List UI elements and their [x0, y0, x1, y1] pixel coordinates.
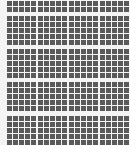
tile[interactable] — [75, 94, 80, 99]
tile[interactable] — [19, 28, 24, 33]
tile[interactable] — [7, 40, 12, 45]
tile[interactable] — [81, 134, 86, 139]
tile[interactable] — [87, 116, 92, 121]
tile[interactable] — [62, 122, 67, 127]
tile[interactable] — [75, 128, 80, 133]
tile[interactable] — [31, 7, 36, 12]
tile[interactable] — [62, 88, 67, 93]
tile[interactable] — [50, 106, 55, 111]
tile[interactable] — [124, 67, 129, 72]
tile[interactable] — [124, 34, 129, 39]
tile[interactable] — [100, 100, 105, 105]
tile[interactable] — [118, 55, 123, 60]
tile[interactable] — [118, 106, 123, 111]
tile[interactable] — [50, 94, 55, 99]
tile[interactable] — [81, 16, 86, 21]
tile[interactable] — [81, 88, 86, 93]
tile[interactable] — [75, 7, 80, 12]
tile[interactable] — [112, 106, 117, 111]
tile[interactable] — [106, 34, 111, 39]
tile[interactable] — [13, 128, 18, 133]
tile[interactable] — [87, 100, 92, 105]
tile[interactable] — [81, 73, 86, 78]
tile[interactable] — [25, 1, 30, 6]
tile[interactable] — [7, 94, 12, 99]
tile[interactable] — [13, 82, 18, 87]
tile[interactable] — [106, 28, 111, 33]
tile[interactable] — [81, 106, 86, 111]
tile[interactable] — [31, 61, 36, 66]
tile[interactable] — [93, 49, 98, 54]
tile[interactable] — [44, 40, 49, 45]
tile[interactable] — [124, 100, 129, 105]
tile[interactable] — [81, 94, 86, 99]
tile[interactable] — [7, 82, 12, 87]
tile[interactable] — [56, 140, 61, 145]
tile[interactable] — [25, 40, 30, 45]
tile[interactable] — [25, 55, 30, 60]
tile[interactable] — [100, 88, 105, 93]
tile[interactable] — [56, 22, 61, 27]
tile[interactable] — [100, 82, 105, 87]
tile[interactable] — [100, 49, 105, 54]
tile[interactable] — [106, 106, 111, 111]
tile[interactable] — [56, 34, 61, 39]
tile[interactable] — [44, 61, 49, 66]
tile[interactable] — [75, 134, 80, 139]
tile[interactable] — [56, 40, 61, 45]
tile[interactable] — [100, 28, 105, 33]
tile[interactable] — [93, 106, 98, 111]
tile[interactable] — [81, 22, 86, 27]
tile[interactable] — [118, 88, 123, 93]
tile[interactable] — [87, 122, 92, 127]
tile[interactable] — [19, 106, 24, 111]
tile[interactable] — [31, 55, 36, 60]
tile[interactable] — [93, 100, 98, 105]
tile[interactable] — [19, 100, 24, 105]
tile[interactable] — [87, 134, 92, 139]
tile[interactable] — [69, 1, 74, 6]
tile[interactable] — [31, 73, 36, 78]
tile[interactable] — [62, 134, 67, 139]
tile[interactable] — [7, 100, 12, 105]
tile[interactable] — [38, 40, 43, 45]
tile[interactable] — [56, 28, 61, 33]
tile[interactable] — [106, 116, 111, 121]
tile[interactable] — [118, 134, 123, 139]
tile[interactable] — [81, 7, 86, 12]
tile[interactable] — [31, 67, 36, 72]
tile[interactable] — [124, 28, 129, 33]
tile[interactable] — [19, 140, 24, 145]
tile[interactable] — [100, 61, 105, 66]
tile[interactable] — [7, 1, 12, 6]
tile[interactable] — [124, 7, 129, 12]
tile[interactable] — [93, 34, 98, 39]
tile[interactable] — [75, 1, 80, 6]
tile[interactable] — [13, 34, 18, 39]
tile[interactable] — [25, 28, 30, 33]
tile[interactable] — [69, 134, 74, 139]
tile[interactable] — [56, 94, 61, 99]
tile[interactable] — [50, 16, 55, 21]
tile[interactable] — [50, 73, 55, 78]
tile[interactable] — [7, 67, 12, 72]
tile[interactable] — [56, 128, 61, 133]
tile[interactable] — [106, 140, 111, 145]
tile[interactable] — [44, 82, 49, 87]
tile[interactable] — [81, 122, 86, 127]
tile[interactable] — [19, 49, 24, 54]
tile[interactable] — [13, 100, 18, 105]
tile[interactable] — [7, 55, 12, 60]
tile[interactable] — [118, 16, 123, 21]
tile[interactable] — [62, 28, 67, 33]
tile[interactable] — [112, 67, 117, 72]
tile[interactable] — [31, 134, 36, 139]
tile[interactable] — [13, 7, 18, 12]
tile[interactable] — [112, 73, 117, 78]
tile[interactable] — [38, 7, 43, 12]
tile[interactable] — [100, 55, 105, 60]
tile[interactable] — [62, 7, 67, 12]
tile[interactable] — [100, 122, 105, 127]
tile[interactable] — [13, 55, 18, 60]
tile[interactable] — [106, 100, 111, 105]
